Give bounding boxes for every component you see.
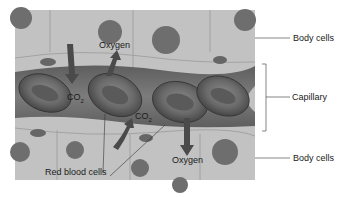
nucleus <box>234 9 256 31</box>
nucleus <box>10 7 32 29</box>
nucleus <box>172 177 188 193</box>
endothelial-nucleus <box>40 58 56 66</box>
label-body-cells-bottom: Body cells <box>293 153 334 163</box>
label-capillary: Capillary <box>292 92 327 102</box>
nucleus <box>66 141 84 159</box>
nucleus <box>131 159 149 177</box>
label-co2-right: CO2 <box>135 111 152 125</box>
nucleus <box>212 139 238 165</box>
label-oxygen-top: Oxygen <box>99 40 130 50</box>
nucleus <box>152 26 180 54</box>
label-body-cells-top: Body cells <box>293 33 334 43</box>
nucleus <box>10 142 30 162</box>
label-oxygen-bottom: Oxygen <box>172 155 203 165</box>
endothelial-nucleus <box>30 129 46 137</box>
endothelial-nucleus <box>213 56 227 64</box>
label-red-blood-cells: Red blood cells <box>45 167 107 177</box>
label-co2-left: CO2 <box>67 92 84 106</box>
